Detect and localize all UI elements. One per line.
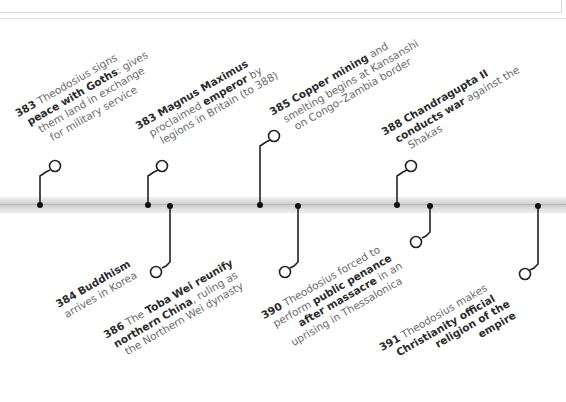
dot-391-christianity — [535, 203, 541, 209]
connector-390-penance — [411, 206, 431, 248]
dot-384-buddhism — [167, 203, 173, 209]
dot-388-chandragupta — [394, 202, 400, 208]
connector-391-christianity — [520, 206, 539, 280]
connector-383-goths — [40, 161, 61, 206]
connector-384-buddhism — [151, 206, 171, 278]
connector-383-maximus — [148, 161, 168, 206]
dot-390-penance — [427, 203, 433, 209]
dot-385-copper — [257, 202, 263, 208]
connector-386-tobawei — [280, 206, 299, 278]
connector-385-copper — [260, 131, 280, 206]
connector-388-chandragupta — [397, 161, 417, 206]
dot-386-tobawei — [295, 203, 301, 209]
dot-383-goths — [37, 202, 43, 208]
dot-383-maximus — [145, 202, 151, 208]
